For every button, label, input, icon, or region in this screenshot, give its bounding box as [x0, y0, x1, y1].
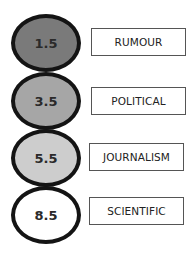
scale-item-journalism: 5.5 JOURNALISM — [0, 129, 195, 187]
score-value: 3.5 — [34, 94, 57, 109]
category-label-box: POLITICAL — [91, 87, 186, 115]
score-value: 8.5 — [34, 208, 57, 223]
category-label: RUMOUR — [115, 36, 163, 48]
score-value: 5.5 — [34, 151, 57, 166]
category-label-box: SCIENTIFIC — [89, 197, 184, 225]
score-value: 1.5 — [34, 36, 57, 51]
category-label: JOURNALISM — [103, 151, 170, 163]
score-ellipse: 8.5 — [11, 186, 81, 244]
category-label: SCIENTIFIC — [107, 205, 166, 217]
category-label-box: RUMOUR — [91, 28, 186, 56]
scale-item-scientific: 8.5 SCIENTIFIC — [0, 186, 195, 244]
score-ellipse: 5.5 — [11, 129, 81, 187]
category-label: POLITICAL — [111, 95, 165, 107]
category-label-box: JOURNALISM — [89, 143, 184, 171]
scale-item-rumour: 1.5 RUMOUR — [0, 14, 195, 72]
score-ellipse: 1.5 — [11, 14, 81, 72]
score-ellipse: 3.5 — [11, 72, 81, 130]
scale-item-political: 3.5 POLITICAL — [0, 72, 195, 130]
